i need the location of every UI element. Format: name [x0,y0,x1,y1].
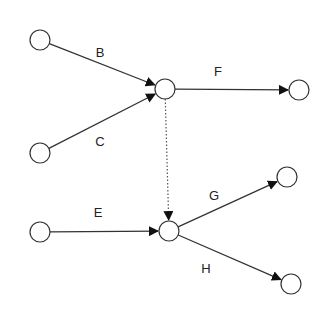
edge-e-arrow [50,231,158,232]
edge-g-arrow [178,182,277,227]
edge-label-c: C [95,134,104,149]
nodes [30,30,309,294]
edge-dummy-arrow [165,99,168,220]
node-circle-n4 [289,80,309,100]
node-circle-n7 [277,167,297,187]
edge-h-arrow [178,235,281,280]
edge-label-g: G [209,188,219,203]
node-circle-n1 [30,30,50,50]
node-circle-n5 [30,222,50,242]
node-circle-n2 [30,143,50,163]
node-circle-n6 [159,221,179,241]
network-diagram: BCFEGH [0,0,328,311]
edge-label-f: F [214,64,222,79]
edge-label-h: H [201,261,210,276]
edge-label-e: E [94,205,103,220]
node-circle-n3 [155,79,175,99]
edge-label-b: B [96,45,105,60]
node-circle-n8 [281,274,301,294]
edge-f-arrow [175,89,288,90]
edge-labels: BCFEGH [94,45,222,276]
